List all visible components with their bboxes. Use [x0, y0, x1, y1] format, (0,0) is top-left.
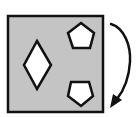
rotation-diagram [0, 0, 140, 117]
clockwise-arrow-icon [111, 24, 130, 99]
